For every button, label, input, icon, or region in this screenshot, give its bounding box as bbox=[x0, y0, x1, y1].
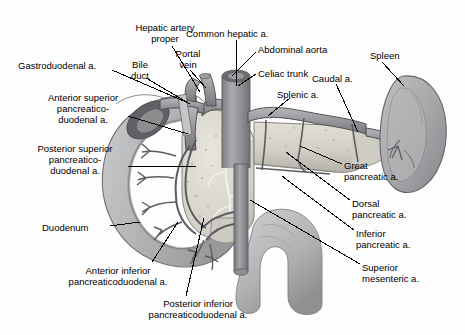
label-common-hepatic-a: Common hepatic a. bbox=[186, 28, 298, 39]
label-inferior-pancreatic-a: Inferior pancreatic a. bbox=[356, 228, 432, 250]
label-spleen: Spleen bbox=[370, 50, 416, 61]
label-abdominal-aorta: Abdominal aorta bbox=[258, 44, 358, 55]
label-great-pancreatic-a: Great pancreatic a. bbox=[344, 160, 420, 182]
label-portal-vein: Portal vein bbox=[168, 48, 208, 70]
portal-vein bbox=[200, 73, 217, 106]
label-gastroduodenal-a: Gastroduodenal a. bbox=[18, 60, 122, 71]
label-anterior-inferior-pancreaticoduodenal-a: Anterior inferior pancreaticoduodenal a. bbox=[48, 265, 188, 287]
superior-mesenteric-artery bbox=[234, 164, 248, 275]
label-caudal-a: Caudal a. bbox=[312, 73, 372, 84]
label-bile-duct: Bile duct bbox=[123, 59, 157, 81]
label-duodenum: Duodenum bbox=[42, 222, 108, 233]
label-anterior-superior-pancreaticoduodenal-a: Anterior superior pancreatico- duodenal … bbox=[34, 92, 132, 125]
label-posterior-inferior-pancreaticoduodenal-a: Posterior inferior pancreaticoduodenal a… bbox=[128, 298, 268, 320]
label-superior-mesenteric-a: Superior mesenteric a. bbox=[362, 262, 442, 284]
leader-spleen bbox=[382, 62, 404, 86]
label-splenic-a: Splenic a. bbox=[277, 89, 339, 100]
anatomical-figure: Hepatic artery properCommon hepatic a.Ga… bbox=[0, 0, 465, 335]
label-dorsal-pancreatic-a: Dorsal pancreatic a. bbox=[352, 198, 428, 220]
label-posterior-superior-pancreaticoduodenal-a: Posterior superior pancreatico- duodenal… bbox=[22, 143, 128, 176]
